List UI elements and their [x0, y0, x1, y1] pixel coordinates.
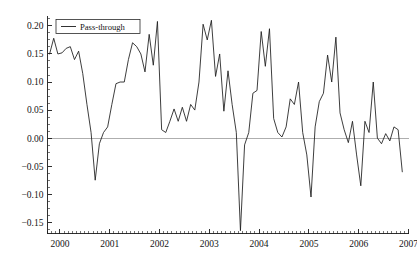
y-axis-tick-label: 0.15 [27, 49, 44, 59]
series-line-pass-through [50, 20, 403, 230]
axis-lines [48, 16, 409, 234]
x-axis-tick-label: 2004 [250, 239, 269, 249]
x-axis-tick-label: 2000 [50, 239, 69, 249]
y-axis-tick-label: 0.05 [27, 105, 44, 115]
y-axis-tick-labels: 0.200.150.100.050.00−0.05−0.10−0.15 [22, 21, 44, 227]
y-axis-tick-label: −0.15 [22, 218, 44, 228]
chart-container: 0.200.150.100.050.00−0.05−0.10−0.15 2000… [0, 0, 417, 266]
x-axis-tick-label: 2005 [299, 239, 318, 249]
line-chart: 0.200.150.100.050.00−0.05−0.10−0.15 2000… [0, 0, 417, 266]
y-axis-tick-label: 0.10 [27, 77, 44, 87]
x-axis-tick-label: 2003 [200, 239, 219, 249]
axis-major-ticks [48, 26, 409, 234]
axis-minor-ticks [48, 19, 405, 234]
chart-legend: Pass-through [56, 20, 140, 34]
x-axis-tick-label: 2001 [100, 239, 119, 249]
legend-label-pass-through: Pass-through [80, 22, 126, 32]
y-axis-tick-label: 0.00 [27, 134, 44, 144]
y-axis-tick-label: −0.10 [22, 190, 44, 200]
x-axis-tick-labels: 20002001200220032004200520062007 [50, 239, 417, 249]
x-axis-tick-label: 2007 [399, 239, 417, 249]
y-axis-tick-label: 0.20 [27, 21, 44, 31]
x-axis-tick-label: 2006 [349, 239, 368, 249]
series-pass-through [50, 20, 403, 230]
x-axis-tick-label: 2002 [150, 239, 169, 249]
y-axis-tick-label: −0.05 [22, 162, 44, 172]
